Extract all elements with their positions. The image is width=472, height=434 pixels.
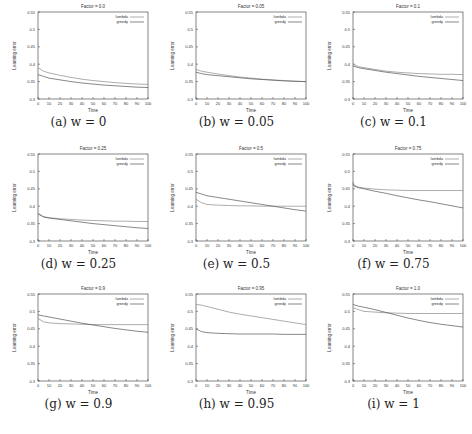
x-tick-label: 0 — [37, 243, 40, 248]
x-tick-label: 20 — [373, 383, 378, 388]
x-tick-label: 0 — [195, 383, 198, 388]
x-tick-label: 0 — [37, 101, 40, 106]
x-tick-label: 70 — [113, 243, 118, 248]
x-tick-label: 80 — [439, 101, 444, 106]
x-tick-label: 0 — [352, 383, 355, 388]
x-tick-label: 50 — [406, 101, 411, 106]
x-tick-label: 10 — [362, 101, 367, 106]
y-tick-label: 0.45 — [185, 186, 194, 191]
plot-frame — [353, 294, 463, 381]
x-tick-label: 10 — [362, 383, 367, 388]
x-tick-label: 80 — [282, 243, 287, 248]
legend-label-lambda: lambda — [274, 297, 287, 301]
x-tick-label: 40 — [80, 243, 85, 248]
x-tick-label: 50 — [406, 243, 411, 248]
plot-frame — [38, 12, 148, 99]
x-tick-label: 20 — [58, 383, 63, 388]
subfigure-caption: (a) w = 0 — [0, 115, 157, 129]
legend-label-greedy: greedy — [274, 302, 286, 306]
y-tick-label: 0.3 — [344, 97, 350, 102]
y-tick-label: 0.55 — [27, 10, 36, 15]
y-tick-label: 0.45 — [27, 186, 36, 191]
chart-panel-b: Factor = 0.0501020304050607080901000.30.… — [158, 0, 315, 132]
subfigure-caption: (d) w = 0.25 — [0, 257, 157, 271]
x-tick-label: 30 — [69, 243, 74, 248]
y-tick-label: 0.35 — [185, 361, 194, 366]
y-tick-label: 0.4 — [344, 204, 350, 209]
x-tick-label: 20 — [58, 101, 63, 106]
y-tick-label: 0.35 — [342, 361, 351, 366]
y-tick-label: 0.55 — [27, 292, 36, 297]
y-axis-label: Learning error — [170, 323, 175, 352]
plot-frame — [196, 12, 306, 99]
legend-label-lambda: lambda — [274, 15, 287, 19]
y-tick-label: 0.3 — [29, 97, 35, 102]
x-tick-label: 60 — [102, 243, 107, 248]
series-line-greedy — [196, 72, 306, 81]
x-tick-label: 60 — [260, 383, 265, 388]
legend-label-greedy: greedy — [431, 20, 443, 24]
x-tick-label: 80 — [439, 383, 444, 388]
x-tick-label: 0 — [352, 101, 355, 106]
x-tick-label: 40 — [80, 383, 85, 388]
x-tick-label: 0 — [352, 243, 355, 248]
y-tick-label: 0.55 — [185, 152, 194, 157]
x-tick-label: 10 — [205, 101, 210, 106]
y-tick-label: 0.5 — [29, 27, 35, 32]
x-tick-label: 30 — [227, 383, 232, 388]
x-tick-label: 70 — [113, 101, 118, 106]
subfigure-caption: (b) w = 0.05 — [158, 115, 315, 129]
x-tick-label: 100 — [303, 101, 310, 106]
x-tick-label: 10 — [362, 243, 367, 248]
series-line-greedy — [353, 184, 463, 208]
x-tick-label: 50 — [249, 243, 254, 248]
plot-frame — [38, 154, 148, 241]
y-tick-label: 0.5 — [344, 309, 350, 314]
x-tick-label: 40 — [395, 243, 400, 248]
x-tick-label: 80 — [282, 101, 287, 106]
y-tick-label: 0.55 — [342, 152, 351, 157]
x-tick-label: 70 — [428, 101, 433, 106]
chart-title: Factor = 0.75 — [395, 146, 422, 151]
chart-panel-g: Factor = 0.901020304050607080901000.30.3… — [0, 282, 157, 414]
x-tick-label: 0 — [37, 383, 40, 388]
y-tick-label: 0.4 — [29, 204, 35, 209]
subfigure-caption: (f) w = 0.75 — [315, 257, 472, 271]
y-tick-label: 0.5 — [187, 309, 193, 314]
x-tick-label: 90 — [450, 243, 455, 248]
x-tick-label: 50 — [91, 383, 96, 388]
y-tick-label: 0.35 — [27, 361, 36, 366]
legend-label-greedy: greedy — [274, 162, 286, 166]
y-tick-label: 0.35 — [185, 221, 194, 226]
x-tick-label: 100 — [303, 243, 310, 248]
chart-title: Factor = 0.5 — [239, 146, 264, 151]
chart-title: Factor = 0.95 — [238, 286, 265, 291]
chart-panel-d: Factor = 0.2501020304050607080901000.30.… — [0, 142, 157, 274]
x-tick-label: 100 — [145, 243, 152, 248]
x-tick-label: 50 — [91, 243, 96, 248]
y-axis-label: Learning error — [12, 323, 17, 352]
legend-label-lambda: lambda — [274, 157, 287, 161]
subfigure-caption: (h) w = 0.95 — [158, 397, 315, 411]
plot-frame — [353, 12, 463, 99]
chart-title: Factor = 0.0 — [81, 4, 106, 9]
x-tick-label: 10 — [205, 243, 210, 248]
y-tick-label: 0.3 — [29, 379, 35, 384]
x-tick-label: 40 — [238, 383, 243, 388]
y-tick-label: 0.35 — [342, 79, 351, 84]
chart-title: Factor = 0.1 — [396, 4, 421, 9]
series-line-lambda — [38, 213, 148, 221]
x-tick-label: 30 — [384, 101, 389, 106]
x-tick-label: 0 — [195, 243, 198, 248]
chart-panel-e: Factor = 0.501020304050607080901000.30.3… — [158, 142, 315, 274]
x-tick-label: 50 — [249, 383, 254, 388]
x-tick-label: 30 — [384, 383, 389, 388]
y-tick-label: 0.35 — [185, 79, 194, 84]
y-axis-label: Learning error — [327, 41, 332, 70]
x-tick-label: 60 — [417, 243, 422, 248]
y-tick-label: 0.35 — [27, 221, 36, 226]
y-tick-label: 0.5 — [344, 27, 350, 32]
series-line-lambda — [353, 182, 463, 191]
x-tick-label: 20 — [58, 243, 63, 248]
y-tick-label: 0.3 — [187, 379, 193, 384]
